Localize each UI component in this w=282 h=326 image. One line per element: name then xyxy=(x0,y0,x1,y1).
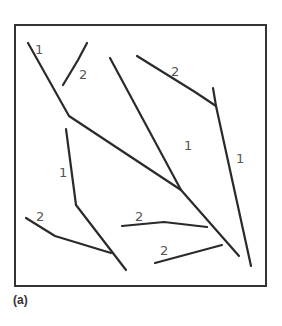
order-label: 2 xyxy=(171,64,179,79)
stream-segment-order1-right xyxy=(213,88,251,266)
order-label: 2 xyxy=(36,209,44,224)
order-label: 1 xyxy=(35,42,43,57)
figure-caption: (a) xyxy=(13,293,28,307)
diagram-frame xyxy=(15,25,266,286)
stream-segments xyxy=(26,43,251,270)
order-label: 1 xyxy=(236,151,244,166)
order-label: 2 xyxy=(79,67,87,82)
order-label: 1 xyxy=(59,165,67,180)
order-label: 2 xyxy=(160,243,168,258)
order-label: 1 xyxy=(184,138,192,153)
stream-order-diagram: 122111222 xyxy=(0,0,282,326)
order-label: 2 xyxy=(135,209,143,224)
